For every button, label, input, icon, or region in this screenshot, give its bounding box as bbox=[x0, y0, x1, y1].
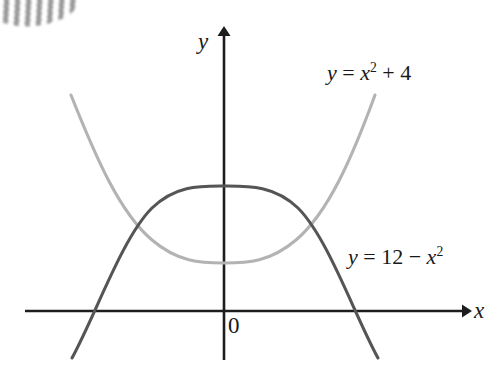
equation-exponent-downward: 2 bbox=[436, 244, 443, 259]
equation-label-downward-parabola: y = 12 − x2 bbox=[348, 246, 443, 268]
y-axis-label: y bbox=[198, 30, 208, 53]
equation-equals-upward: = bbox=[342, 60, 354, 85]
graph-figure: y x 0 y = x2 + 4 y = 12 − x2 bbox=[0, 0, 498, 371]
equation-exponent-upward: 2 bbox=[370, 60, 377, 75]
equation-label-upward-parabola: y = x2 + 4 bbox=[327, 62, 411, 84]
equation-tail-upward: + 4 bbox=[382, 60, 411, 85]
equation-equals-downward: = bbox=[363, 244, 375, 269]
equation-base-downward: x bbox=[427, 244, 437, 269]
origin-label: 0 bbox=[228, 314, 240, 337]
equation-lhs-upward: y bbox=[327, 60, 337, 85]
coordinate-plane-svg bbox=[0, 0, 498, 371]
y-axis-arrow-icon bbox=[218, 26, 231, 36]
x-axis-label: x bbox=[474, 299, 484, 322]
equation-lead-downward: 12 − bbox=[381, 244, 421, 269]
equation-base-upward: x bbox=[360, 60, 370, 85]
equation-lhs-downward: y bbox=[348, 244, 358, 269]
x-axis-arrow-icon bbox=[462, 305, 472, 318]
